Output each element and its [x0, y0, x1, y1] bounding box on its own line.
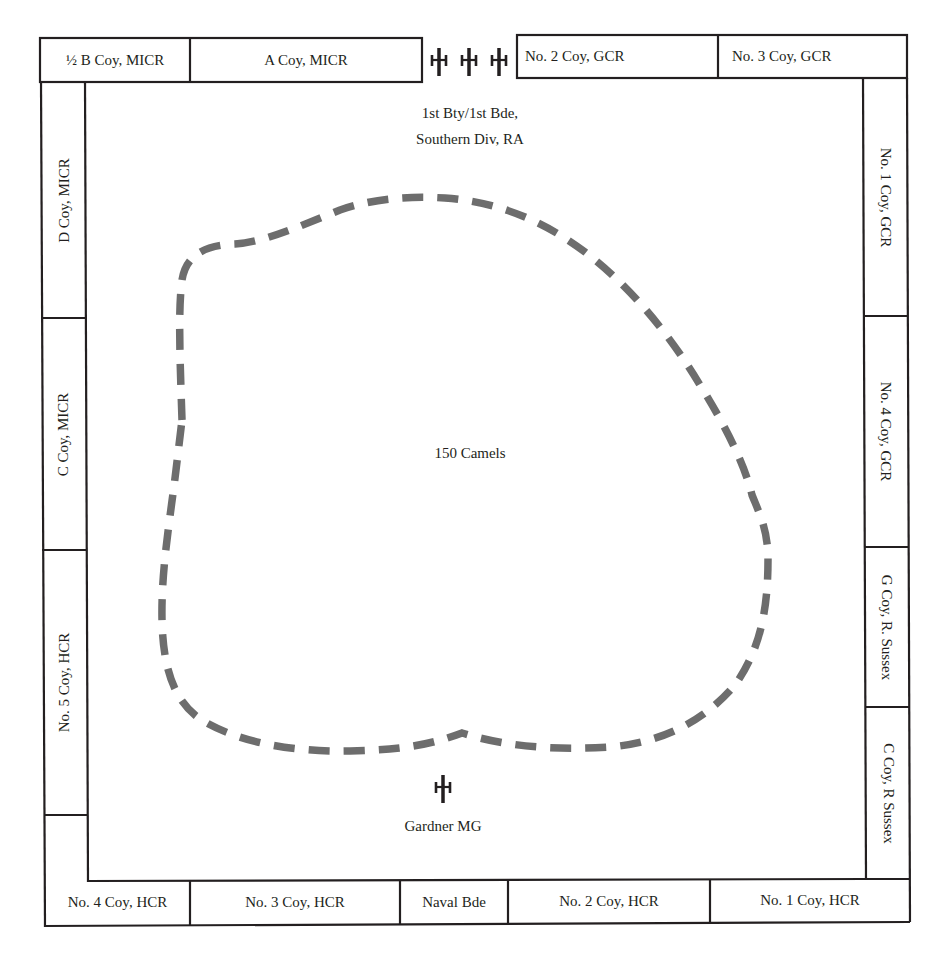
machine-gun-icon: [433, 774, 453, 804]
unit-a-coy-micr: A Coy, MICR: [190, 38, 422, 82]
square-formation-diagram: ½ B Coy, MICR A Coy, MICR No. 2 Coy, GCR…: [0, 0, 942, 958]
unit-label: No. 2 Coy, GCR: [525, 48, 624, 65]
unit-label: No. 3 Coy, HCR: [245, 894, 344, 911]
unit-label: G Coy, R. Sussex: [879, 574, 896, 679]
camel-enclosure-boundary: [162, 197, 768, 751]
unit-no4-coy-hcr: No. 4 Coy, HCR: [45, 880, 190, 925]
unit-no4-coy-gcr: No. 4 Coy, GCR: [864, 316, 908, 547]
battery-label: 1st Bty/1st Bde, Southern Div, RA: [370, 100, 570, 152]
unit-g-coy-r-sussex: G Coy, R. Sussex: [865, 547, 909, 707]
unit-c-coy-r-sussex: C Coy, R Sussex: [866, 707, 910, 879]
unit-no2-coy-gcr: No. 2 Coy, GCR: [517, 35, 718, 78]
unit-label: C Coy, MICR: [56, 392, 73, 476]
field-gun-icon: [459, 47, 479, 77]
unit-c-coy-micr: C Coy, MICR: [42, 318, 86, 550]
unit-label: Naval Bde: [422, 894, 486, 911]
unit-label: No. 4 Coy, HCR: [68, 894, 167, 911]
unit-label: No. 2 Coy, HCR: [559, 893, 658, 910]
field-gun-icon: [489, 47, 509, 77]
unit-label: No. 4 Coy, GCR: [878, 382, 895, 481]
unit-d-coy-micr: D Coy, MICR: [42, 82, 86, 318]
gardner-mg-label: Gardner MG: [373, 813, 513, 839]
battery-label-line2: Southern Div, RA: [370, 126, 570, 152]
unit-label: D Coy, MICR: [56, 158, 73, 242]
unit-label: No. 1 Coy, GCR: [878, 147, 895, 246]
unit-no2-coy-hcr: No. 2 Coy, HCR: [508, 879, 710, 923]
unit-label: A Coy, MICR: [264, 52, 348, 69]
camels-label: 150 Camels: [400, 440, 540, 466]
unit-label: No. 1 Coy, HCR: [760, 892, 859, 909]
unit-label: No. 5 Coy, HCR: [57, 633, 74, 732]
unit-half-b-coy-micr: ½ B Coy, MICR: [40, 38, 190, 82]
unit-no3-coy-hcr: No. 3 Coy, HCR: [190, 880, 400, 925]
unit-label: ½ B Coy, MICR: [66, 52, 165, 69]
unit-no1-coy-gcr: No. 1 Coy, GCR: [864, 78, 908, 316]
unit-no5-coy-hcr: No. 5 Coy, HCR: [43, 550, 87, 815]
field-gun-icon: [429, 47, 449, 77]
unit-label: C Coy, R Sussex: [880, 743, 897, 844]
unit-label: No. 3 Coy, GCR: [732, 48, 831, 65]
unit-no3-coy-gcr: No. 3 Coy, GCR: [718, 35, 907, 78]
unit-no1-coy-hcr: No. 1 Coy, HCR: [710, 878, 910, 922]
unit-naval-bde: Naval Bde: [400, 880, 508, 924]
battery-label-line1: 1st Bty/1st Bde,: [370, 100, 570, 126]
